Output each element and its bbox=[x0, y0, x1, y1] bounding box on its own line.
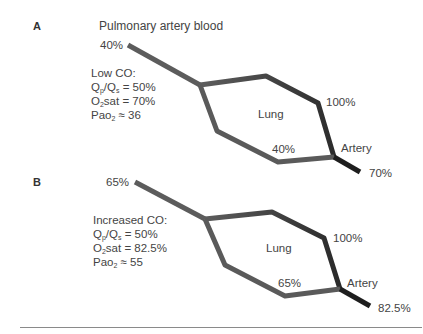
panel-a-pao2: Pao2 ≈ 36 bbox=[91, 108, 141, 122]
bottom-rule bbox=[20, 327, 422, 328]
panel-b-inflow-sat: 65% bbox=[106, 175, 129, 189]
panel-b-o2sat: O2sat = 82.5% bbox=[93, 241, 167, 255]
panel-a-letter: A bbox=[33, 19, 41, 33]
panel-b-arterial-sat: 82.5% bbox=[378, 301, 411, 315]
panel-b-lung-label: Lung bbox=[266, 241, 292, 255]
shunt-path-b bbox=[205, 219, 340, 296]
panel-a-condition: Low CO: bbox=[91, 66, 136, 80]
panel-a-inflow-sat: 40% bbox=[100, 38, 123, 52]
panel-b-vein-sat: 100% bbox=[333, 231, 362, 245]
panel-a-shunt-sat: 40% bbox=[272, 142, 295, 156]
panel-a-lung-label: Lung bbox=[258, 107, 284, 121]
panel-b-artery-label: Artery bbox=[347, 276, 378, 290]
panel-a-artery-label: Artery bbox=[341, 141, 372, 155]
shunt-path-a bbox=[200, 85, 334, 162]
panel-a-o2sat: O2sat = 70% bbox=[91, 94, 155, 108]
panel-b-pao2: Pao2 ≈ 55 bbox=[93, 255, 143, 269]
panel-a-arterial-sat: 70% bbox=[369, 166, 392, 180]
panel-a-vein-sat: 100% bbox=[326, 95, 355, 109]
panel-a-title: Pulmonary artery blood bbox=[99, 19, 223, 33]
systemic-artery-outflow-b bbox=[340, 289, 370, 306]
panel-b-letter: B bbox=[33, 175, 41, 189]
panel-b-condition: Increased CO: bbox=[93, 213, 167, 227]
panel-b-qp-qs: Qp/Qs = 50% bbox=[93, 227, 158, 241]
pulmonary-artery-inflow-a bbox=[128, 45, 200, 85]
panel-a-qp-qs: Qp/Qs = 50% bbox=[91, 80, 156, 94]
systemic-artery-outflow-a bbox=[334, 157, 360, 172]
panel-b-shunt-sat: 65% bbox=[278, 276, 301, 290]
